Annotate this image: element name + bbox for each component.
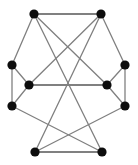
vertex-left-lower — [7, 101, 16, 110]
vertex-right-middle — [102, 80, 111, 89]
vertex-top-right — [96, 9, 105, 18]
graph-canvas — [0, 0, 138, 165]
vertex-top-left — [29, 9, 38, 18]
vertex-left-middle — [24, 80, 33, 89]
vertex-right-lower — [120, 101, 129, 110]
edge-top-left-to-left-upper — [12, 14, 34, 65]
vertex-bottom-right — [97, 147, 106, 156]
vertex-right-upper — [120, 60, 129, 69]
vertex-bottom-left — [30, 147, 39, 156]
edge-left-lower-to-bottom-right — [12, 106, 102, 152]
edge-right-lower-to-bottom-left — [35, 106, 125, 152]
vertex-left-upper — [7, 60, 16, 69]
graph-figure — [0, 0, 138, 165]
edge-top-right-to-right-upper — [101, 14, 125, 65]
